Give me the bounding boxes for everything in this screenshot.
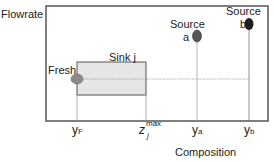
diagram-canvas [0, 0, 274, 162]
tick-zmax: z max j [139, 120, 145, 132]
source-a-node [193, 30, 202, 42]
tick-ya: ya [192, 124, 202, 138]
source-a-label-line1: Source [170, 18, 205, 30]
tick-zmax-main: z [139, 123, 145, 137]
tick-ya-sub: a [198, 127, 202, 136]
tick-yb-sub: b [250, 127, 254, 136]
tick-yF: yF [72, 124, 83, 138]
sink-j-region [77, 62, 146, 95]
x-axis-label: Composition [175, 146, 236, 158]
tick-zmax-sub: j [147, 130, 149, 142]
tick-zmax-sup: max [146, 118, 161, 130]
tick-yF-sub: F [78, 127, 83, 136]
fresh-label: Fresh [48, 64, 76, 76]
tick-yb: yb [244, 124, 254, 138]
sink-label: Sink j [109, 51, 136, 63]
y-axis-label: Flowrate [1, 8, 43, 20]
source-a-label-line2: a [183, 31, 189, 43]
source-b-label-line1: Source [226, 5, 261, 17]
source-b-label-line2: b [240, 18, 246, 30]
